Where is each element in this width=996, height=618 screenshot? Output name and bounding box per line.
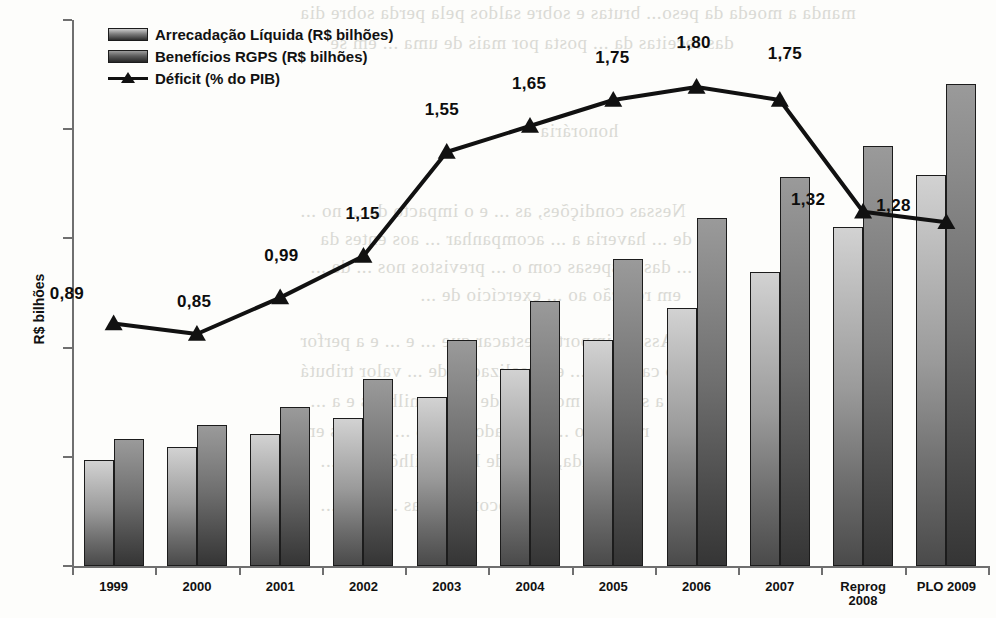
x-axis-tick: [655, 566, 657, 575]
x-tick-label: Reprog2008: [818, 580, 908, 608]
x-tick-label: PLO 2009: [901, 580, 991, 594]
bar-group: [750, 20, 810, 566]
bar-arrecadacao: [750, 272, 780, 566]
bar-beneficios: [363, 379, 393, 566]
x-tick-label: 2006: [652, 580, 742, 594]
bar-group: [833, 20, 893, 566]
bar-arrecadacao: [167, 447, 197, 566]
legend-item-deficit: Déficit (% do PIB): [108, 68, 393, 88]
bar-arrecadacao: [417, 397, 447, 566]
x-tick-label: 2001: [235, 580, 325, 594]
bar-beneficios: [530, 301, 560, 566]
x-axis-tick: [821, 566, 823, 575]
x-axis-tick: [488, 566, 490, 575]
x-tick-label-line: 2004: [485, 580, 575, 594]
x-axis-tick: [405, 566, 407, 575]
x-tick-label: 2004: [485, 580, 575, 594]
deficit-value-label: 1,28: [876, 196, 910, 216]
bar-group: [500, 20, 560, 566]
legend-item-beneficios: Benefícios RGPS (R$ bilhões): [108, 46, 393, 66]
x-tick-label: 2003: [402, 580, 492, 594]
bar-arrecadacao: [84, 460, 114, 566]
x-axis-tick: [572, 566, 574, 575]
bar-group: [583, 20, 643, 566]
bar-arrecadacao: [250, 434, 280, 566]
x-axis-tick: [72, 566, 74, 575]
deficit-value-label: 1,75: [768, 44, 802, 64]
chart-legend: Arrecadação Líquida (R$ bilhões) Benefíc…: [108, 24, 393, 90]
bar-beneficios: [697, 218, 727, 566]
bar-group: [916, 20, 976, 566]
deficit-value-label: 1,55: [425, 100, 459, 120]
legend-label: Déficit (% do PIB): [155, 70, 280, 87]
deficit-value-label: 1,15: [345, 204, 379, 224]
x-tick-label: 2002: [318, 580, 408, 594]
x-tick-label-line: 2006: [652, 580, 742, 594]
deficit-value-label: 0,85: [177, 292, 211, 312]
bar-arrecadacao: [833, 227, 863, 566]
bar-beneficios: [613, 259, 643, 566]
y-axis-title: R$ bilhões: [31, 274, 47, 345]
legend-item-arrecadacao: Arrecadação Líquida (R$ bilhões): [108, 24, 393, 44]
bar-group: [84, 20, 144, 566]
legend-label: Arrecadação Líquida (R$ bilhões): [155, 26, 393, 43]
x-tick-label-line: 2000: [152, 580, 242, 594]
bar-arrecadacao: [500, 369, 530, 566]
x-axis-tick: [155, 566, 157, 575]
bar-group: [333, 20, 393, 566]
x-tick-label: 1999: [69, 580, 159, 594]
bar-arrecadacao: [916, 175, 946, 566]
bar-arrecadacao: [583, 340, 613, 566]
bar-beneficios: [447, 340, 477, 566]
x-tick-label-line: 2005: [568, 580, 658, 594]
deficit-value-label: 1,65: [512, 74, 546, 94]
x-tick-label-line: Reprog: [818, 580, 908, 594]
x-tick-label: 2000: [152, 580, 242, 594]
x-tick-label-line: 2002: [318, 580, 408, 594]
x-axis-line: [72, 566, 988, 568]
x-tick-label: 2007: [735, 580, 825, 594]
x-tick-label-line: 2001: [235, 580, 325, 594]
deficit-value-label: 0,99: [264, 246, 298, 266]
x-axis-tick: [322, 566, 324, 575]
bar-arrecadacao: [667, 308, 697, 566]
bar-arrecadacao: [333, 418, 363, 567]
x-tick-label: 2005: [568, 580, 658, 594]
chart-container: manda a moeda da peso... brutas e sobre …: [0, 0, 996, 618]
x-tick-label-line: 2007: [735, 580, 825, 594]
deficit-value-label: 0,89: [50, 284, 84, 304]
x-axis-tick: [905, 566, 907, 575]
x-axis-tick: [988, 566, 990, 575]
bar-beneficios: [280, 407, 310, 566]
legend-line-triangle-icon: [108, 71, 148, 85]
bar-beneficios: [946, 84, 976, 566]
x-tick-label-line: PLO 2009: [901, 580, 991, 594]
x-tick-label-line: 2008: [818, 594, 908, 608]
bar-beneficios: [780, 177, 810, 566]
deficit-value-label: 1,75: [595, 48, 629, 68]
x-tick-label-line: 1999: [69, 580, 159, 594]
deficit-value-label: 1,80: [677, 33, 711, 53]
x-tick-label-line: 2003: [402, 580, 492, 594]
bar-group: [667, 20, 727, 566]
x-axis-tick: [239, 566, 241, 575]
bar-beneficios: [197, 425, 227, 566]
x-axis-tick: [738, 566, 740, 575]
legend-swatch-dark-icon: [108, 50, 148, 63]
legend-label: Benefícios RGPS (R$ bilhões): [155, 48, 368, 65]
bar-group: [250, 20, 310, 566]
bar-beneficios: [114, 439, 144, 566]
deficit-value-label: 1,32: [791, 190, 825, 210]
legend-swatch-light-icon: [108, 28, 148, 41]
